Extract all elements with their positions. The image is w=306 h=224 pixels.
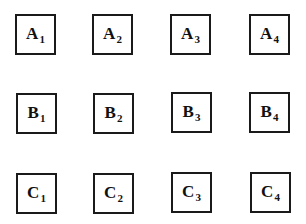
box-subscript: 4 [273,33,279,45]
box-subscript: 2 [117,192,123,204]
box-subscript: 2 [116,33,122,45]
box-a3: A3 [170,14,211,55]
box-subscript: 3 [194,33,200,45]
box-label: A3 [181,25,200,45]
box-letter: A [103,24,115,43]
box-letter: A [26,24,38,43]
box-letter: A [181,24,193,43]
box-b3: B3 [171,92,212,133]
box-b2: B2 [93,93,134,134]
box-label: A2 [103,25,122,45]
box-subscript: 4 [274,191,280,203]
box-c4: C4 [250,172,291,213]
box-label: C4 [261,183,280,203]
box-subscript: 4 [273,111,279,123]
box-label: C2 [104,184,123,204]
box-label: C3 [182,183,201,203]
box-subscript: 1 [40,192,46,204]
box-letter: B [183,102,194,121]
box-c2: C2 [93,173,134,214]
box-a2: A2 [92,14,133,55]
box-label: B3 [183,103,201,123]
box-a4: A4 [249,14,290,55]
box-label: B4 [261,103,279,123]
box-c1: C1 [16,173,57,214]
box-letter: B [28,103,39,122]
box-label: B2 [105,104,123,124]
box-label: A1 [26,25,45,45]
box-label: A4 [260,25,279,45]
box-subscript: 1 [40,112,46,124]
box-subscript: 1 [39,33,45,45]
box-subscript: 3 [195,111,201,123]
box-b1: B1 [16,93,57,134]
box-label: C1 [27,184,46,204]
box-letter: B [105,103,116,122]
box-c3: C3 [171,172,212,213]
box-subscript: 3 [195,191,201,203]
box-subscript: 2 [117,112,123,124]
box-letter: B [261,102,272,121]
box-letter: C [27,183,39,202]
box-letter: A [260,24,272,43]
box-b4: B4 [249,92,290,133]
box-a1: A1 [15,14,56,55]
box-letter: C [104,183,116,202]
box-label: B1 [28,104,46,124]
box-letter: C [182,182,194,201]
box-letter: C [261,182,273,201]
